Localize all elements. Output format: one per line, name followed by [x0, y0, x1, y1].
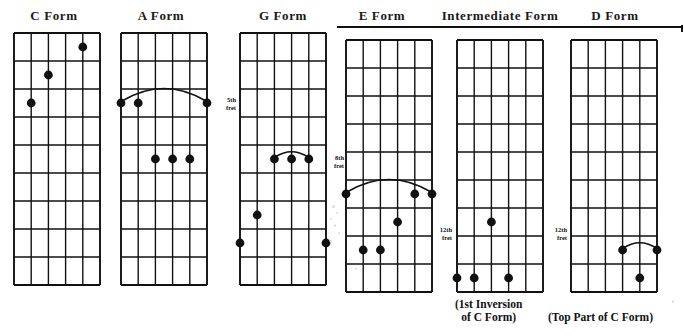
fretboard-a-form: [121, 33, 207, 285]
finger-dot: [253, 211, 262, 220]
finger-dot: [453, 274, 462, 283]
scan-speck: [672, 300, 674, 303]
fretboard-grid-d-form: [562, 31, 666, 301]
fret-number: 8th: [320, 154, 344, 162]
chord-forms-sheet: C FormA FormG FormE FormIntermediate For…: [0, 0, 684, 336]
fretboard-grid-a-form: [112, 24, 216, 294]
finger-dot: [428, 190, 437, 199]
fret-word: fret: [212, 104, 236, 112]
fretboard-grid-c-form: [5, 24, 109, 294]
finger-dot: [287, 155, 296, 164]
fret-number: 12th: [428, 226, 452, 234]
finger-dot: [117, 99, 126, 108]
finger-dot: [168, 155, 177, 164]
finger-dot: [393, 218, 402, 227]
fret-word: fret: [543, 234, 567, 242]
scan-speck: [336, 212, 338, 214]
finger-dot: [44, 71, 53, 80]
finger-dot: [185, 155, 194, 164]
finger-dot: [504, 274, 513, 283]
finger-dot: [342, 190, 351, 199]
caption-line: (Top Part of C Form): [548, 311, 653, 324]
form-title-d-form: D Form: [525, 8, 684, 24]
fret-number: 5th: [212, 96, 236, 104]
fret-number: 12th: [543, 226, 567, 234]
finger-dot: [151, 155, 160, 164]
finger-dot: [635, 274, 644, 283]
finger-dot: [304, 155, 313, 164]
finger-dot: [410, 190, 419, 199]
finger-dot: [236, 239, 245, 248]
finger-dot: [203, 99, 212, 108]
finger-dot: [27, 99, 36, 108]
scan-speck: [338, 232, 340, 234]
scan-speck: [332, 205, 335, 208]
finger-dot: [376, 246, 385, 255]
finger-dot: [470, 274, 479, 283]
fret-position-label-intermediate-form: 12thfret: [428, 226, 452, 241]
scan-speck: [334, 224, 336, 227]
fretboard-grid-intermediate-form: [448, 31, 552, 301]
fret-position-label-g-form: 5thfret: [212, 96, 236, 111]
caption-line: (1st Inversion: [455, 298, 522, 311]
finger-dot: [618, 246, 627, 255]
finger-dot: [134, 99, 143, 108]
barre-arc: [346, 180, 432, 193]
fret-word: fret: [428, 234, 452, 242]
scan-speck: [355, 268, 357, 270]
finger-dot: [487, 218, 496, 227]
caption-intermediate: (1st Inversionof C Form): [455, 298, 522, 324]
fret-word: fret: [320, 162, 344, 170]
title-underline-rule: [337, 26, 683, 28]
finger-dot: [653, 246, 662, 255]
finger-dot: [78, 43, 87, 52]
fretboard-g-form: [240, 33, 326, 285]
caption-d-form: (Top Part of C Form): [548, 311, 653, 324]
fretboard-intermediate-form: [457, 40, 543, 292]
fretboard-e-form: [346, 40, 432, 292]
fret-position-label-d-form: 12thfret: [543, 226, 567, 241]
fretboard-grid-e-form: [337, 31, 441, 301]
finger-dot: [359, 246, 368, 255]
fretboard-c-form: [14, 33, 100, 285]
fretboard-d-form: [571, 40, 657, 292]
scan-speck: [329, 240, 332, 242]
caption-line: of C Form): [455, 311, 522, 324]
scan-speck: [330, 218, 332, 220]
barre-arc: [121, 89, 207, 102]
finger-dot: [270, 155, 279, 164]
fret-position-label-e-form: 8thfret: [320, 154, 344, 169]
